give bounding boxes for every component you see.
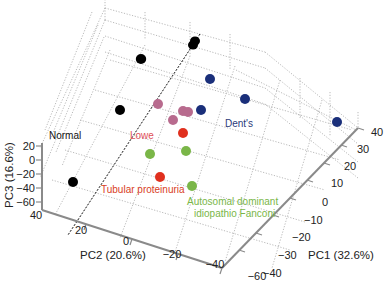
label-adif-line1: Autosomal dominant (187, 196, 278, 207)
pc3-tick-labels: 20 0 −20 −40 −60 (16, 140, 35, 208)
data-point (155, 172, 165, 182)
pca-3d-scatter-chart: 20 0 −20 −40 −60 40 20 0 −20 −40 −60 40 … (0, 0, 391, 286)
data-point (240, 94, 250, 104)
pc1-tick: −20 (292, 231, 311, 243)
label-adif-line2: idiopathio Fanconi (194, 208, 275, 219)
pc2-tick-labels: 40 20 0 −20 −40 −60 (30, 209, 266, 282)
pc1-tick: 20 (344, 160, 356, 172)
pc3-axis-title: PC3 (16.6%) (3, 142, 15, 208)
data-point (181, 146, 191, 156)
pc3-tick: −40 (16, 182, 35, 194)
grid-back-right-wall (236, 52, 358, 178)
pc1-tick: −10 (304, 214, 323, 226)
pc1-tick: 10 (331, 177, 343, 189)
pc1-tick: 40 (371, 126, 383, 138)
data-point (187, 181, 197, 191)
data-point (188, 40, 198, 49)
pc1-axis-title: PC1 (32.6%) (308, 249, 374, 261)
label-normal: Normal (49, 130, 81, 141)
pc1-tick: 0 (322, 196, 328, 208)
data-point (145, 149, 155, 159)
data-point (115, 105, 125, 115)
data-point (153, 99, 163, 109)
pc3-tick: −60 (16, 196, 35, 208)
pc2-axis-title: PC2 (20.6%) (80, 249, 146, 261)
data-point (205, 74, 215, 84)
pc2-tick: 0 (123, 235, 129, 247)
data-point (196, 105, 206, 115)
pc2-tick: 40 (30, 209, 42, 221)
pc2-tick: −20 (163, 248, 182, 260)
pc2-tick: −40 (206, 258, 225, 270)
pc1-tick: −40 (263, 267, 282, 279)
data-point (68, 177, 78, 187)
label-dents: Dent's (225, 118, 253, 129)
points-dents (196, 74, 342, 127)
pc3-tick: 0 (29, 154, 35, 166)
points-lowe (153, 99, 193, 125)
data-point (168, 115, 178, 125)
pc1-tick: −30 (278, 249, 297, 261)
label-lowe: Lowe (130, 130, 154, 141)
pc3-tick: 20 (23, 140, 35, 152)
data-point (332, 117, 342, 127)
data-point (183, 107, 193, 117)
pc3-tick: −20 (16, 168, 35, 180)
pc1-tick: 30 (357, 143, 369, 155)
pc2-tick: 20 (75, 224, 87, 236)
data-point (136, 54, 146, 64)
data-point (178, 128, 188, 138)
label-tubular-proteinuria: Tubular proteinuria (101, 184, 185, 195)
